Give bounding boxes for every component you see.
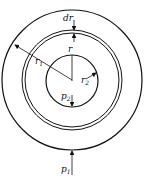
p1-label: p1 xyxy=(61,164,71,175)
r1-label: r1 xyxy=(35,56,43,67)
r2-label: r2 xyxy=(81,75,89,86)
radius-r1-arrow xyxy=(15,45,72,80)
r-label: r xyxy=(68,44,73,54)
dr-label: dr xyxy=(63,13,74,23)
thick-cylinder-diagram: dr r r1 r2 p2 p1 xyxy=(0,0,145,177)
p2-label: p2 xyxy=(61,91,71,102)
